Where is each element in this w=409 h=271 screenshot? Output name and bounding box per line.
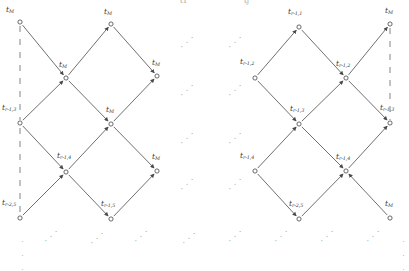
lattice-node[interactable]	[344, 76, 348, 80]
lattice-node[interactable]	[297, 122, 301, 126]
lattice-node[interactable]	[18, 20, 22, 24]
lattice-node[interactable]	[109, 22, 113, 26]
lattice-node[interactable]	[155, 169, 159, 173]
node-label-subscript: r-2,5	[292, 202, 303, 208]
node-label-subscript: M	[62, 63, 67, 69]
lattice-edge	[23, 81, 63, 120]
lattice-node[interactable]	[64, 76, 68, 80]
lattice-node[interactable]	[253, 76, 257, 80]
node-label-subscript: r-1,3	[383, 106, 394, 112]
node-label-subscript: r-1,4	[60, 154, 71, 160]
lattice-edge	[69, 175, 108, 216]
ellipsis-dots: . . .	[19, 236, 25, 271]
ellipsis-dots: . . .	[400, 236, 406, 271]
lattice-edge	[349, 27, 388, 75]
node-time-label: tr-2,5	[289, 200, 303, 208]
lattice-edge	[302, 81, 343, 121]
lattice-node[interactable]	[253, 169, 257, 173]
node-time-label: tr-1,1	[288, 8, 302, 16]
lattice-node[interactable]	[388, 216, 392, 220]
node-time-label: tr-1,4	[336, 153, 350, 161]
node-time-label: tr-1,4	[240, 152, 254, 160]
lattice-edge	[23, 175, 63, 215]
node-time-label: tr-2,5	[2, 199, 16, 207]
node-label-subscript: M	[388, 202, 393, 208]
lattice-node[interactable]	[18, 216, 22, 220]
top-cut-label-left: t1	[180, 0, 187, 5]
lattice-edge	[114, 174, 154, 216]
lattice-node[interactable]	[109, 217, 113, 221]
node-time-label: tM	[385, 7, 393, 15]
lattice-edge	[114, 79, 154, 121]
lattice-edge	[258, 30, 297, 75]
lattice-edge	[114, 127, 154, 168]
node-label-subscript: r-1,4	[243, 154, 254, 160]
lattice-edge	[258, 127, 297, 168]
lattice-edge	[302, 127, 343, 168]
node-layer	[18, 20, 392, 221]
node-time-label: tr-1,2	[336, 60, 350, 68]
lattice-node[interactable]	[344, 169, 348, 173]
node-label-subscript: r-1,4	[339, 155, 350, 161]
lattice-edge	[349, 126, 388, 168]
node-time-label: tr-1,4	[57, 152, 71, 160]
edge-layer	[23, 25, 388, 216]
lattice-edge	[349, 174, 388, 215]
node-label-subscript: r-1,1	[291, 10, 302, 16]
lattice-node[interactable]	[109, 122, 113, 126]
node-label-subscript: M	[9, 8, 14, 14]
node-label-subscript: r-1,2	[339, 62, 350, 68]
node-label-subscript: M	[109, 108, 114, 114]
node-label-subscript: M	[155, 155, 160, 161]
node-label-subscript: r-1,3	[293, 107, 304, 113]
lattice-node[interactable]	[64, 170, 68, 174]
lattice-node[interactable]	[18, 121, 22, 125]
lattice-node[interactable]	[388, 22, 392, 26]
node-time-label: tr-1,3	[380, 104, 394, 112]
node-label-subscript: r-1,3	[5, 106, 16, 112]
node-time-label: tr-1,3	[2, 104, 16, 112]
lattice-edge	[69, 27, 109, 75]
node-time-label: tM	[152, 59, 160, 67]
node-label-subscript: M	[155, 61, 160, 67]
lattice-edge	[23, 25, 64, 75]
lattice-edge	[302, 174, 343, 216]
node-time-label: tM	[6, 6, 14, 14]
node-time-label: tM	[152, 153, 160, 161]
lattice-edge	[258, 174, 297, 216]
lattice-node[interactable]	[297, 25, 301, 29]
lattice-node[interactable]	[388, 121, 392, 125]
lattice-edge	[69, 127, 109, 169]
lattice-edge	[69, 81, 108, 121]
node-label-subscript: r-1,2	[243, 60, 254, 66]
node-time-label: tM	[106, 106, 114, 114]
node-label-subscript: M	[388, 9, 393, 15]
node-label-subscript: r-1,5	[104, 202, 115, 208]
node-label-subscript: r-2,5	[5, 201, 16, 207]
node-label-subscript: M	[107, 10, 112, 16]
dashed-boundary-layer	[20, 26, 390, 215]
node-time-label: tM	[104, 8, 112, 16]
node-time-label: tM	[385, 200, 393, 208]
node-time-label: tr-1,2	[240, 58, 254, 66]
lattice-edge	[114, 27, 155, 73]
lattice-node[interactable]	[297, 217, 301, 221]
node-time-label: tr-1,5	[101, 200, 115, 208]
lattice-edge	[349, 81, 387, 120]
lattice-edge	[258, 81, 296, 121]
node-time-label: tr-1,3	[290, 105, 304, 113]
node-time-label: tM	[59, 61, 67, 69]
lattice-edge	[302, 30, 344, 75]
top-cut-label-right: tj	[244, 0, 249, 5]
lattice-node[interactable]	[155, 74, 159, 78]
lattice-edge	[23, 126, 64, 169]
